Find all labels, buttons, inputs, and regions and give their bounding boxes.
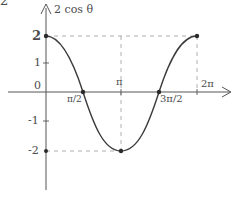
point-pi-m2 — [119, 149, 123, 153]
y-tick-2: 2 — [32, 29, 41, 42]
origin-label: 0 — [34, 80, 41, 91]
y-axis-title: 2 cos θ — [54, 4, 93, 15]
x-tick-3pi-over-2: 3π/2 — [160, 94, 183, 104]
x-tick-2pi: 2π — [201, 79, 214, 89]
point-0-2 — [44, 34, 48, 38]
y-tick-1: 1 — [34, 57, 41, 68]
corner-label: 2 — [0, 0, 8, 7]
y-tick-minus-1: -1 — [28, 115, 39, 126]
x-tick-pi: π — [116, 77, 123, 87]
point-y-m2 — [44, 149, 48, 153]
point-2pi-2 — [195, 34, 199, 38]
y-tick-minus-2: -2 — [28, 145, 39, 156]
x-tick-pi-over-2: π/2 — [67, 95, 82, 104]
axes — [8, 4, 231, 190]
